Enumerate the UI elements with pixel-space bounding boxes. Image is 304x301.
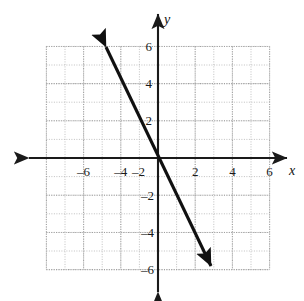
y-tick-label--4: –4	[140, 225, 155, 240]
x-tick-label-6: 6	[266, 164, 273, 179]
x-tick-label--6: –6	[76, 164, 91, 179]
x-axis-label: x	[288, 163, 296, 178]
y-tick-label--6: –6	[140, 262, 155, 277]
y-tick-label-4: 4	[146, 76, 153, 91]
coordinate-plane-figure: –6 –4 –2 2 4 6 6 4 2 –2 –4 –6 x y	[0, 0, 304, 301]
x-tick-label-2: 2	[192, 164, 199, 179]
y-tick-label--2: –2	[140, 188, 154, 203]
y-axis-label: y	[162, 12, 171, 27]
graph-canvas: –6 –4 –2 2 4 6 6 4 2 –2 –4 –6 x y	[0, 0, 304, 301]
x-tick-label--4: –4	[113, 164, 128, 179]
x-tick-label-4: 4	[229, 164, 236, 179]
y-tick-label-6: 6	[146, 39, 153, 54]
y-tick-label-2: 2	[146, 113, 153, 128]
x-tick-label--2: –2	[131, 164, 145, 179]
